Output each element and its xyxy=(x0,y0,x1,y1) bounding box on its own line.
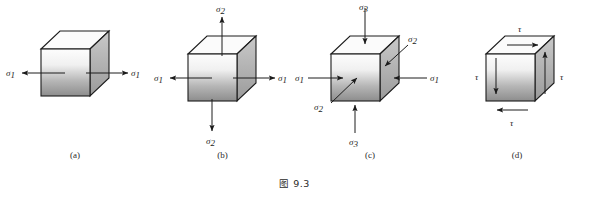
stress-label-sigma1-right: σ1 xyxy=(430,73,439,85)
shear-label-left: τ xyxy=(475,72,479,82)
stress-label-sigma1-left: σ1 xyxy=(295,73,304,85)
panel-label-b: (b) xyxy=(150,150,295,160)
shear-label-right: τ xyxy=(560,72,564,82)
stress-label-sigma2-back: σ2 xyxy=(408,34,417,46)
stress-label-sigma1-right: σ1 xyxy=(278,73,287,85)
stress-label-sigma2-front: σ2 xyxy=(314,102,323,114)
cube-diagram-c: σ1 σ1 σ3 σ3 σ2 σ2 xyxy=(295,0,445,150)
cube-diagram-b: σ1 σ1 σ2 σ2 xyxy=(150,0,295,150)
stress-state-figure: σ1 σ1 (a) xyxy=(0,0,589,200)
figure-caption: 图 9.3 xyxy=(0,176,589,190)
cube-front-face xyxy=(486,54,535,101)
panel-label-c: (c) xyxy=(295,150,445,160)
stress-label-sigma2-top: σ2 xyxy=(216,4,225,16)
shear-label-bottom: τ xyxy=(510,118,514,128)
cube-diagram-a: σ1 σ1 xyxy=(0,0,150,150)
panel-label-a: (a) xyxy=(0,150,150,160)
cube-diagram-d: τ τ τ τ xyxy=(445,0,589,150)
shear-label-top: τ xyxy=(518,24,522,34)
panel-label-d: (d) xyxy=(445,150,589,160)
stress-label-sigma3-top: σ3 xyxy=(359,2,368,14)
panel-pure-shear: τ τ τ τ (d) xyxy=(445,0,589,200)
panel-triaxial: σ1 σ1 σ3 σ3 σ2 σ2 (c) xyxy=(295,0,445,200)
stress-label-sigma1-left: σ1 xyxy=(6,68,15,80)
panel-uniaxial: σ1 σ1 (a) xyxy=(0,0,150,200)
stress-label-sigma1-right: σ1 xyxy=(131,68,140,80)
stress-label-sigma2-bottom: σ2 xyxy=(206,136,215,148)
stress-label-sigma1-left: σ1 xyxy=(154,73,163,85)
panel-biaxial: σ1 σ1 σ2 σ2 (b) xyxy=(150,0,295,200)
stress-label-sigma3-bottom: σ3 xyxy=(349,137,358,149)
